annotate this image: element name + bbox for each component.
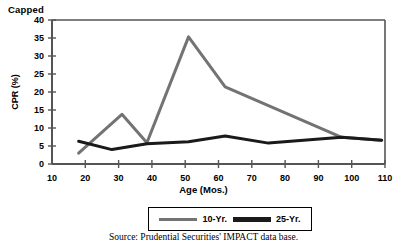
source-note: Source: Prudential Securities' IMPACT da… (0, 232, 407, 242)
y-tick-label: 5 (39, 141, 44, 151)
x-tick-label: 60 (213, 173, 223, 183)
x-tick-label: 90 (313, 173, 323, 183)
x-tick-label: 10 (47, 173, 57, 183)
y-tick-label: 15 (34, 105, 44, 115)
x-tick-label: 100 (344, 173, 359, 183)
y-tick-label: 25 (34, 69, 44, 79)
x-tick-label: 20 (80, 173, 90, 183)
legend-swatch-10yr (159, 218, 197, 221)
y-tick-label: 40 (34, 15, 44, 25)
y-tick-label: 20 (34, 87, 44, 97)
y-tick-label: 35 (34, 33, 44, 43)
plot-area-wrapper: 0510152025303540102030405060708090100110… (0, 14, 407, 184)
legend-swatch-25yr (233, 217, 271, 222)
y-tick-label: 10 (34, 123, 44, 133)
x-tick-label: 80 (280, 173, 290, 183)
series-line-25-yr (79, 136, 382, 150)
y-tick-label: 30 (34, 51, 44, 61)
x-tick-label: 50 (180, 173, 190, 183)
legend-item-25yr: 25-Yr. (233, 214, 301, 224)
y-tick-label: 0 (39, 159, 44, 169)
x-axis-title: Age (Mos.) (0, 184, 407, 195)
chart-figure: Capped 051015202530354010203040506070809… (0, 0, 407, 247)
chart-legend: 10-Yr. 25-Yr. (148, 207, 312, 231)
x-tick-label: 70 (247, 173, 257, 183)
x-tick-label: 40 (147, 173, 157, 183)
legend-label-10yr: 10-Yr. (202, 214, 227, 224)
legend-label-25yr: 25-Yr. (276, 214, 301, 224)
legend-item-10yr: 10-Yr. (159, 214, 227, 224)
line-chart-svg: 0510152025303540102030405060708090100110… (0, 14, 407, 184)
x-tick-label: 110 (378, 173, 393, 183)
x-tick-label: 30 (114, 173, 124, 183)
y-axis-title: CPR (%) (10, 74, 20, 110)
